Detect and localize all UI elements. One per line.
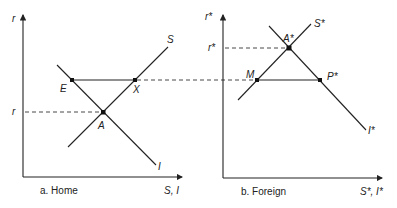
point-e: [70, 78, 74, 82]
foreign-x-axis-label: S*, I*: [360, 186, 384, 197]
foreign-saving-label: S*: [314, 18, 326, 29]
home-saving-curve: [68, 47, 168, 147]
point-a-star-label: A*: [282, 33, 295, 44]
home-investment-label: I: [158, 161, 161, 172]
point-a-label: A: [97, 120, 105, 131]
home-panel: r S, I a. Home r S I E X A: [12, 13, 182, 196]
home-x-axis-label: S, I: [164, 185, 179, 196]
home-saving-label: S: [167, 34, 174, 45]
foreign-rate-label: r*: [208, 42, 216, 53]
point-e-label: E: [60, 83, 67, 94]
foreign-y-axis-label: r*: [205, 11, 213, 22]
point-x: [133, 78, 137, 82]
point-a-star: [287, 46, 292, 51]
point-a: [101, 110, 106, 115]
point-p-star-label: P*: [327, 71, 339, 82]
foreign-investment-label: I*: [368, 125, 376, 136]
point-m-label: M: [246, 69, 255, 80]
home-y-axis-label: r: [12, 13, 16, 24]
foreign-panel: r* S*, I* b. Foreign r* S* I* A* M P*: [205, 11, 384, 197]
point-p-star: [318, 78, 322, 82]
two-country-saving-investment-diagram: r S, I a. Home r S I E X A r* S*, I* b. …: [0, 0, 397, 208]
home-caption: a. Home: [40, 185, 78, 196]
point-x-label: X: [132, 84, 140, 95]
home-rate-label: r: [12, 106, 16, 117]
foreign-caption: b. Foreign: [241, 186, 286, 197]
point-m: [255, 78, 259, 82]
foreign-saving-curve: [238, 24, 311, 100]
